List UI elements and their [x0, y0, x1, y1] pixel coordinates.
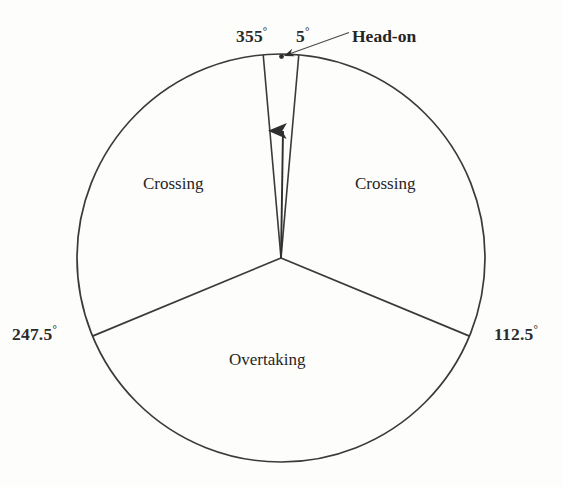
degree-symbol-icon: °: [533, 323, 538, 335]
sector-label-head-on: Head-on: [352, 26, 416, 47]
angle-label-5-value: 5: [296, 26, 305, 46]
radial-line-112-5: [281, 258, 470, 336]
degree-symbol-icon: °: [52, 323, 57, 335]
sector-label-crossing-right: Crossing: [355, 174, 415, 194]
radial-line-247-5: [93, 258, 282, 336]
angle-label-355-value: 355: [236, 26, 263, 46]
degree-symbol-icon: °: [263, 25, 268, 37]
angle-label-247-5-value: 247.5: [12, 324, 52, 344]
angle-label-112-5: 112.5°: [494, 324, 538, 345]
angle-label-355: 355°: [236, 26, 267, 47]
diagram-canvas: [0, 0, 563, 487]
angle-label-5: 5°: [296, 26, 310, 47]
head-on-anchor-dot: [279, 54, 284, 59]
radial-line-5: [281, 55, 299, 258]
sector-label-crossing-left: Crossing: [143, 174, 203, 194]
angle-label-247-5: 247.5°: [12, 324, 57, 345]
angle-label-112-5-value: 112.5: [494, 324, 533, 344]
sector-label-overtaking: Overtaking: [229, 350, 305, 370]
sector-diagram: 355° 5° 112.5° 247.5° Head-on Crossing C…: [0, 0, 563, 487]
degree-symbol-icon: °: [305, 25, 310, 37]
head-on-leader-line: [285, 33, 349, 56]
radial-line-355: [263, 55, 281, 258]
